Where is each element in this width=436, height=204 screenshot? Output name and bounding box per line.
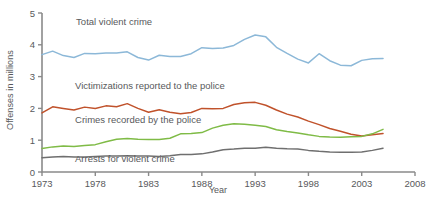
y-tick-label: 4 [30, 39, 35, 50]
axis-lines [42, 13, 415, 172]
series-label-0: Total violent crime [76, 16, 152, 27]
plot-area: 01234519731978198319881993199820032008To… [0, 0, 436, 204]
y-tick-label: 1 [30, 135, 35, 146]
y-tick-label: 0 [30, 167, 35, 178]
series-label-2: Crimes recorded by the police [75, 114, 201, 125]
y-tick-label: 2 [30, 103, 35, 114]
series-label-3: Arrests for violent crime [75, 153, 175, 164]
y-tick-label: 3 [30, 71, 35, 82]
series-line-0 [42, 35, 383, 66]
y-tick-label: 5 [30, 8, 35, 19]
series-label-1: Victimizations reported to the police [75, 80, 225, 91]
violent-crime-line-chart: Offenses in millions 0123451973197819831… [0, 0, 436, 204]
x-axis-label: Year [0, 185, 436, 195]
series-line-2 [42, 124, 383, 149]
